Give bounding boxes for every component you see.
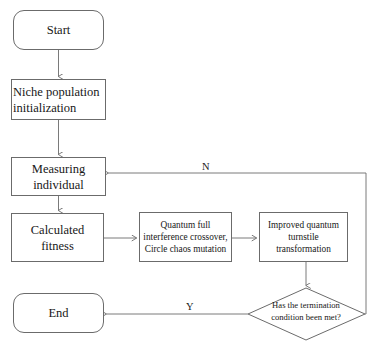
edge-label-no: N: [202, 161, 210, 172]
node-crossover-label: Quantum full interference crossover, Cir…: [143, 219, 227, 256]
node-fitness-label: Calculated fitness: [31, 222, 84, 254]
node-crossover-line-2: interference crossover,: [143, 232, 227, 242]
node-niche-population-initialization[interactable]: Niche population initialization: [11, 79, 106, 120]
node-calculated-fitness[interactable]: Calculated fitness: [11, 213, 104, 262]
node-init-label: Niche population initialization: [13, 84, 99, 116]
node-start[interactable]: Start: [13, 10, 104, 50]
node-decision-label: Has the termination condition been met?: [254, 300, 358, 323]
node-turnstile-line-3: transformation: [276, 244, 331, 254]
node-fitness-line-2: fitness: [41, 239, 74, 253]
node-end[interactable]: End: [13, 293, 104, 333]
node-decision-line-1: Has the termination: [272, 300, 340, 310]
edge-label-yes: Y: [186, 301, 194, 312]
node-turnstile-label: Improved quantum turnstile transformatio…: [268, 219, 339, 256]
node-measure-label: Measuring individual: [32, 161, 85, 193]
node-crossover-line-3: Circle chaos mutation: [145, 244, 227, 254]
node-measure-line-2: individual: [33, 178, 84, 192]
node-init-line-1: Niche population: [13, 85, 99, 99]
node-turnstile-line-1: Improved quantum: [268, 220, 339, 230]
node-decision-line-2: condition been met?: [271, 312, 341, 322]
node-init-line-2: initialization: [13, 101, 76, 115]
node-start-label: Start: [47, 22, 71, 38]
node-turnstile-line-2: turnstile: [288, 232, 318, 242]
node-measure-line-1: Measuring: [32, 162, 85, 176]
node-measuring-individual[interactable]: Measuring individual: [11, 157, 106, 196]
node-crossover-line-1: Quantum full: [161, 220, 211, 230]
flowchart-diagram: Start Niche population initialization Me…: [0, 0, 381, 351]
node-quantum-crossover-mutation[interactable]: Quantum full interference crossover, Cir…: [139, 212, 232, 262]
node-end-label: End: [48, 305, 68, 321]
node-improved-quantum-turnstile-transformation[interactable]: Improved quantum turnstile transformatio…: [259, 212, 348, 262]
node-fitness-line-1: Calculated: [31, 223, 84, 237]
